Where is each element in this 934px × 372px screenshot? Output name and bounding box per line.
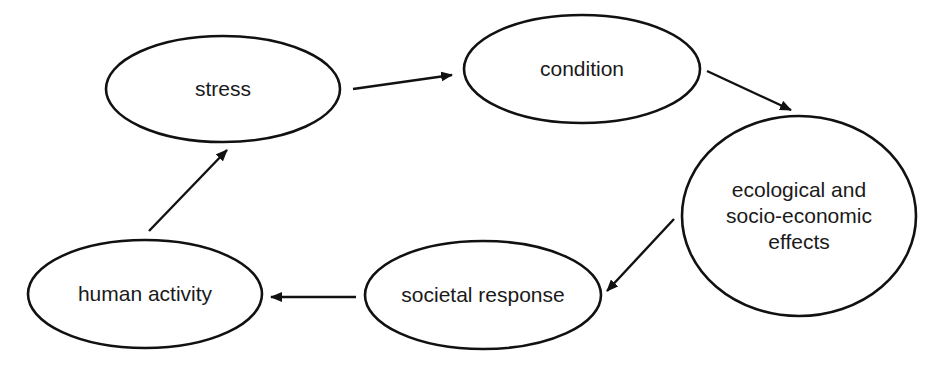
- label-line: socio-economic: [726, 203, 872, 229]
- node-label-human-activity: human activity: [78, 281, 212, 307]
- label-line: human activity: [78, 281, 212, 307]
- arrow-effects-to-societal-response: [607, 219, 674, 291]
- label-line: ecological and: [726, 177, 872, 203]
- label-line: societal response: [401, 282, 564, 308]
- label-line: condition: [540, 56, 624, 82]
- label-line: effects: [726, 229, 872, 255]
- label-line: stress: [195, 76, 251, 102]
- arrow-condition-to-effects: [707, 71, 791, 110]
- node-label-effects: ecological and socio-economic effects: [726, 177, 872, 255]
- arrow-stress-to-condition: [353, 75, 452, 89]
- arrow-human-activity-to-stress: [149, 150, 227, 231]
- node-label-condition: condition: [540, 56, 624, 82]
- node-label-societal-response: societal response: [401, 282, 564, 308]
- node-label-stress: stress: [195, 76, 251, 102]
